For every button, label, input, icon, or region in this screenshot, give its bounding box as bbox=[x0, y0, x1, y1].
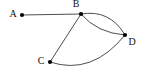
graph-edge-a-b bbox=[22, 14, 81, 15]
graph-node-label-d: D bbox=[128, 36, 135, 47]
graph-node-d bbox=[123, 33, 127, 37]
graph-diagram: ABCD bbox=[0, 0, 141, 77]
graph-node-label-b: B bbox=[73, 0, 80, 9]
graph-edge-b-d-lower bbox=[81, 14, 125, 35]
labels-layer: ABCD bbox=[9, 0, 135, 66]
graph-node-a bbox=[20, 13, 24, 17]
graph-node-c bbox=[48, 60, 52, 64]
graph-edge-c-d bbox=[50, 35, 125, 66]
graph-node-b bbox=[79, 12, 83, 16]
graph-edge-b-c bbox=[50, 14, 81, 62]
graph-node-label-a: A bbox=[9, 8, 17, 19]
graph-edge-b-d-upper bbox=[81, 13, 125, 35]
graph-canvas: ABCD bbox=[0, 0, 141, 77]
graph-node-label-c: C bbox=[38, 55, 45, 66]
